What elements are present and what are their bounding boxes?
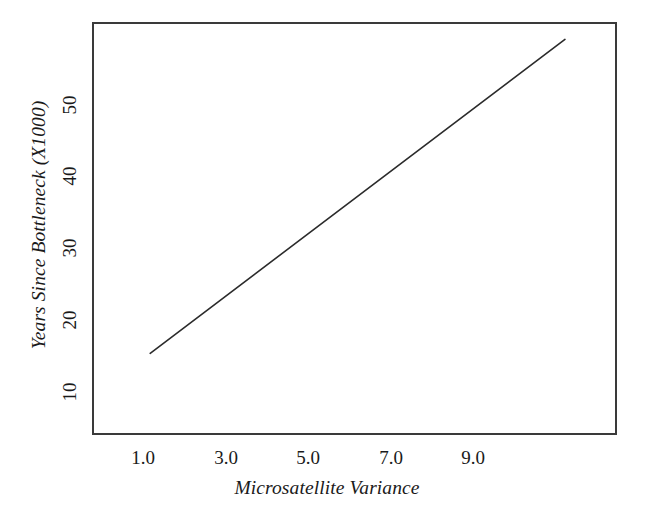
x-tick-label-9: 9.0 [443,446,503,470]
y-axis-title: Years Since Bottleneck (X1000) [26,15,52,435]
y-tick-label-30: 30 [59,218,81,278]
chart-figure: Years Since Bottleneck (X1000) 10 20 30 … [0,0,646,523]
y-tick-label-40: 40 [59,146,81,206]
x-tick-label-3: 3.0 [196,446,256,470]
data-series-line [150,39,565,353]
plot-svg [94,24,615,433]
x-tick-label-5: 5.0 [278,446,338,470]
y-tick-label-20: 20 [59,290,81,350]
plot-area [92,22,617,435]
x-axis-title: Microsatellite Variance [92,474,562,502]
y-tick-label-10: 10 [59,362,81,422]
x-tick-label-7: 7.0 [361,446,421,470]
x-tick-label-1: 1.0 [113,446,173,470]
y-tick-label-50: 50 [59,75,81,135]
